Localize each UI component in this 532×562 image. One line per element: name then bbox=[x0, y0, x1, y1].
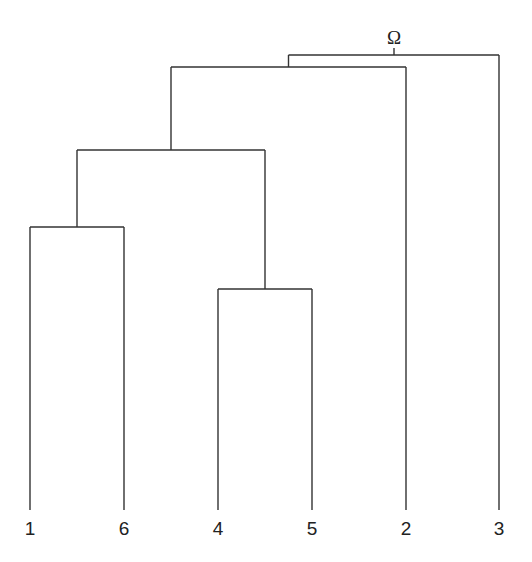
root-label: Ω bbox=[387, 27, 401, 48]
leaf-label-3: 3 bbox=[494, 518, 505, 539]
dendrogram: 164523 Ω bbox=[0, 0, 532, 562]
dendrogram-links bbox=[30, 55, 499, 510]
root-marker: Ω bbox=[387, 27, 401, 55]
leaf-label-2: 2 bbox=[401, 518, 412, 539]
leaf-label-5: 5 bbox=[307, 518, 318, 539]
leaf-labels: 164523 bbox=[25, 518, 505, 539]
leaf-label-4: 4 bbox=[213, 518, 224, 539]
leaf-label-1: 1 bbox=[25, 518, 36, 539]
leaf-label-6: 6 bbox=[119, 518, 130, 539]
